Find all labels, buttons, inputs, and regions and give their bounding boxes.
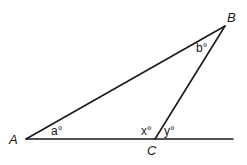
segment-bc bbox=[155, 26, 225, 139]
angle-label-b: b° bbox=[196, 41, 208, 55]
vertex-label-a: A bbox=[8, 132, 18, 147]
triangle-diagram: A B C a° b° x° y° bbox=[0, 0, 247, 165]
angle-label-a: a° bbox=[51, 124, 63, 138]
angle-label-y: y° bbox=[164, 124, 175, 138]
vertex-label-b: B bbox=[227, 10, 236, 25]
vertex-label-c: C bbox=[147, 143, 157, 158]
angle-label-x: x° bbox=[141, 124, 152, 138]
